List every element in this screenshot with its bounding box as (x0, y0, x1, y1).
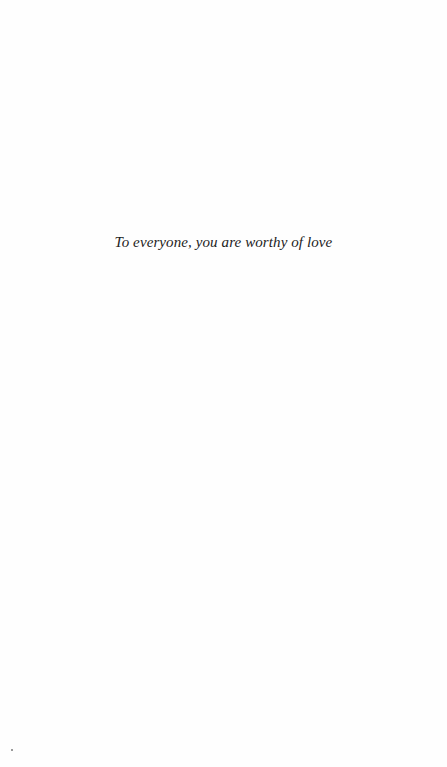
book-page: To everyone, you are worthy of love (0, 0, 447, 767)
dedication-text: To everyone, you are worthy of love (0, 234, 447, 251)
scan-speck (11, 749, 13, 751)
